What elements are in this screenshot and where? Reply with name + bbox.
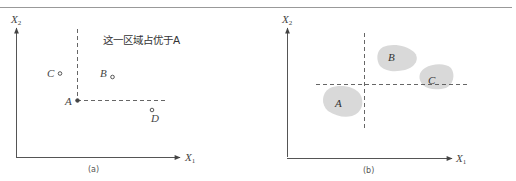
panel-b-x-axis-label: X1 — [456, 153, 466, 164]
region-a-label: A — [335, 98, 342, 109]
region-a-shape — [323, 86, 362, 117]
point-a-label: A — [65, 96, 72, 107]
figure-graphics — [0, 0, 516, 181]
panel-b-y-axis-label: X2 — [282, 14, 292, 25]
panel-b-axes — [287, 28, 452, 159]
panel-b-caption: (b) — [363, 167, 374, 175]
panel-a-caption: (a) — [88, 166, 99, 174]
pareto-dominance-figure: X2 X1 这一区域占优于A A B C D (a) X2 X1 A B C (… — [0, 0, 516, 181]
point-c-label: C — [47, 68, 54, 79]
panel-a-y-axis-label: X2 — [11, 14, 21, 25]
region-c-shape — [419, 64, 453, 89]
region-b-shape — [377, 45, 416, 71]
point-b-marker — [111, 75, 115, 79]
panel-a-axes — [16, 28, 180, 158]
point-a-marker — [76, 99, 80, 103]
panel-a-dominance-annotation: 这一区域占优于A — [103, 35, 180, 46]
point-d-label: D — [151, 113, 159, 124]
point-b-label: B — [100, 68, 107, 79]
point-c-marker — [58, 72, 62, 76]
region-c-label: C — [428, 75, 435, 86]
panel-a-x-axis-label: X1 — [185, 152, 195, 163]
region-b-label: B — [388, 52, 395, 63]
